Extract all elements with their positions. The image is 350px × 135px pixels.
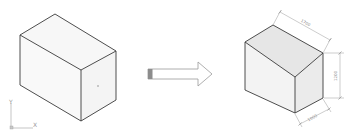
center-dot (97, 85, 98, 86)
ucs-x-label: X (33, 121, 37, 128)
diagram-svg: Y X (0, 0, 350, 135)
drawing-canvas: Y X (0, 0, 350, 135)
undimensioned-box (20, 14, 116, 121)
dimensioned-box (245, 25, 323, 113)
dimension-height-label: 1200 (333, 70, 338, 81)
arrow-tail-block (148, 69, 153, 79)
ucs-y-label: Y (8, 98, 13, 105)
arrow-outline (148, 62, 212, 86)
dimension-length-label: 1700 (300, 18, 312, 28)
dimension-width-label: 1000 (307, 113, 319, 122)
transform-arrow (148, 62, 212, 86)
ucs-icon (10, 103, 33, 129)
